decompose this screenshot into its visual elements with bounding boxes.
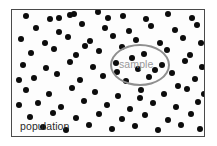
population-dot (192, 76, 198, 82)
population-dot (90, 64, 96, 70)
population-dot (178, 122, 184, 128)
population-dot (46, 91, 52, 97)
population-box: sample population (11, 9, 205, 137)
population-dot (51, 46, 57, 52)
population-dot (95, 9, 101, 15)
population-dot (126, 28, 132, 34)
population-dot (100, 73, 106, 79)
population-dot (50, 110, 56, 116)
population-label: population (20, 120, 69, 132)
population-dot (164, 47, 170, 53)
population-dot (157, 40, 163, 46)
population-dot (105, 15, 111, 21)
population-dot (47, 16, 53, 22)
population-dot (18, 36, 24, 42)
population-dot (198, 40, 204, 46)
population-dot (65, 34, 71, 40)
population-dot (199, 64, 205, 70)
population-dot (73, 52, 79, 58)
population-dot (56, 15, 62, 21)
population-dot (79, 21, 85, 27)
population-dot (102, 25, 108, 31)
population-sample-figure: sample population (0, 0, 217, 146)
population-dot (69, 85, 75, 91)
population-dot (184, 86, 190, 92)
population-dot (204, 52, 205, 58)
population-dot (172, 27, 178, 33)
population-dot (120, 13, 126, 19)
population-dot (155, 127, 161, 133)
population-dot (109, 126, 115, 132)
population-dot (175, 83, 181, 89)
population-dot (119, 116, 125, 122)
population-dot (148, 23, 154, 29)
population-dot (58, 104, 64, 110)
population-dot (20, 62, 26, 68)
population-dot (133, 37, 139, 43)
population-dot (96, 48, 102, 54)
population-dot (92, 89, 98, 95)
population-dot (110, 33, 116, 39)
population-dot (23, 13, 29, 19)
population-dot (87, 38, 93, 44)
population-dot (56, 29, 62, 35)
population-dot (67, 12, 73, 18)
population-dot (42, 40, 48, 46)
population-dot (146, 74, 152, 80)
population-dot (132, 123, 138, 129)
population-dot (150, 100, 156, 106)
population-dot (173, 104, 179, 110)
population-dot (16, 77, 22, 83)
population-dot (194, 22, 200, 28)
population-dot (119, 44, 125, 50)
population-dot (161, 91, 167, 97)
population-dot (165, 117, 171, 123)
population-dot (16, 102, 22, 108)
population-dot (165, 11, 171, 17)
population-dot (169, 70, 175, 76)
population-dot (28, 50, 34, 56)
population-dot (182, 58, 188, 64)
population-dot (138, 87, 144, 93)
population-dot (137, 95, 143, 101)
population-dot (123, 78, 129, 84)
population-dot (141, 51, 147, 57)
population-dot (195, 99, 201, 105)
population-dot (115, 93, 121, 99)
population-dot (82, 43, 88, 49)
population-dot (188, 111, 194, 117)
population-dot (189, 15, 195, 21)
population-dot (31, 75, 37, 81)
population-dot (201, 91, 205, 97)
population-dot (73, 115, 79, 121)
population-dot (67, 59, 73, 65)
population-dot (43, 65, 49, 71)
population-dot (197, 126, 203, 132)
population-dot (77, 77, 83, 83)
population-dot (81, 98, 87, 104)
population-dot (54, 71, 60, 77)
population-dot (86, 122, 92, 128)
population-dot (104, 102, 110, 108)
population-dot (142, 112, 148, 118)
population-dot (187, 52, 193, 58)
population-dot (23, 87, 29, 93)
sample-label: sample (119, 59, 153, 70)
population-dot (35, 100, 41, 106)
population-dot (180, 35, 186, 41)
population-dot (159, 62, 165, 68)
population-dot (143, 16, 149, 22)
population-dot (33, 25, 39, 31)
population-dot (96, 111, 102, 117)
population-dot (127, 106, 133, 112)
